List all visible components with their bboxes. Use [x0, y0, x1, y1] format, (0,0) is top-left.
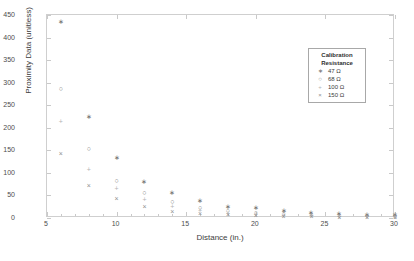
- y-axis-tick: [47, 218, 51, 219]
- x-axis-minor-tick: [353, 214, 354, 216]
- x-axis-minor-tick: [214, 214, 215, 216]
- data-point: ×: [364, 214, 371, 221]
- y-axis-tick-label: 350: [3, 56, 15, 63]
- x-axis-minor-tick: [242, 214, 243, 216]
- data-point: ×: [57, 150, 64, 157]
- x-axis-tick: [325, 15, 326, 19]
- x-axis-tick-label: 5: [44, 220, 48, 227]
- y-axis-tick: [47, 128, 51, 129]
- data-point: ×: [141, 203, 148, 210]
- y-axis-title: Proximity Data (unitless): [24, 0, 33, 141]
- legend-entry: +100 Ω: [311, 83, 363, 91]
- y-axis-tick-label: 250: [3, 101, 15, 108]
- legend-label: 100 Ω: [325, 83, 344, 91]
- x-axis-tick-label: 30: [390, 220, 398, 227]
- y-axis-tick-label: 400: [3, 33, 15, 40]
- data-point: ○: [85, 145, 92, 152]
- y-axis-tick: [389, 38, 393, 39]
- legend-entry: ∗47 Ω: [311, 67, 363, 75]
- data-point: ○: [113, 177, 120, 184]
- y-axis-tick-label: 50: [7, 191, 15, 198]
- x-axis-minor-tick: [298, 214, 299, 216]
- data-point: ○: [141, 189, 148, 196]
- y-axis-tick: [47, 60, 51, 61]
- x-axis-tick: [395, 15, 396, 19]
- y-axis-tick: [389, 60, 393, 61]
- y-axis-tick-label: 0: [11, 214, 15, 221]
- data-point: ∗: [85, 113, 92, 120]
- data-point: +: [113, 185, 120, 192]
- y-axis-tick: [47, 15, 51, 16]
- data-point: +: [57, 118, 64, 125]
- data-point: ∗: [141, 178, 148, 185]
- x-axis-tick: [256, 15, 257, 19]
- y-axis-tick: [389, 128, 393, 129]
- data-point: ×: [85, 182, 92, 189]
- data-point: ×: [336, 214, 343, 221]
- x-axis-tick-label: 15: [181, 220, 189, 227]
- x-axis-tick: [47, 212, 48, 216]
- y-axis-tick: [47, 83, 51, 84]
- legend-title-line-2: Resistance: [311, 60, 363, 68]
- x-axis-minor-tick: [158, 214, 159, 216]
- y-axis-tick: [47, 150, 51, 151]
- legend: Calibration Resistance ∗47 Ω○68 Ω+100 Ω×…: [308, 48, 366, 103]
- legend-label: 150 Ω: [325, 91, 344, 99]
- y-axis-tick: [389, 15, 393, 16]
- x-axis-minor-tick: [144, 214, 145, 216]
- x-axis-tick: [117, 212, 118, 216]
- x-axis-minor-tick: [381, 214, 382, 216]
- data-point: +: [85, 166, 92, 173]
- data-point: ×: [280, 213, 287, 220]
- legend-title-line-1: Calibration: [311, 52, 363, 60]
- data-point: ∗: [57, 18, 64, 25]
- legend-label: 47 Ω: [325, 67, 341, 75]
- x-axis-tick: [325, 212, 326, 216]
- legend-entry: ×150 Ω: [311, 91, 363, 99]
- y-axis-tick-label: 200: [3, 123, 15, 130]
- legend-marker-icon: ∗: [315, 67, 325, 75]
- legend-entries: ∗47 Ω○68 Ω+100 Ω×150 Ω: [311, 67, 363, 99]
- legend-entry: ○68 Ω: [311, 75, 363, 83]
- x-axis-tick: [117, 15, 118, 19]
- x-axis-tick-label: 10: [112, 220, 120, 227]
- y-axis-tick-label: 100: [3, 168, 15, 175]
- figure: ∗∗∗∗∗∗∗∗∗∗∗∗∗○○○○○○○○○○○○○+++++++++++++×…: [0, 0, 414, 261]
- x-axis-title: Distance (in.): [46, 233, 394, 242]
- x-axis-tick-label: 25: [320, 220, 328, 227]
- x-axis-tick-label: 20: [251, 220, 259, 227]
- y-axis-tick: [47, 105, 51, 106]
- data-point: ×: [197, 210, 204, 217]
- x-axis-tick: [186, 212, 187, 216]
- legend-marker-icon: ○: [315, 75, 325, 83]
- y-axis-tick-label: 450: [3, 11, 15, 18]
- plot-area: ∗∗∗∗∗∗∗∗∗∗∗∗∗○○○○○○○○○○○○○+++++++++++++×…: [46, 14, 394, 217]
- data-point: ×: [224, 211, 231, 218]
- data-point: ○: [57, 85, 64, 92]
- data-point: ×: [113, 195, 120, 202]
- x-axis-minor-tick: [75, 214, 76, 216]
- data-point: ∗: [113, 154, 120, 161]
- y-axis-tick: [47, 195, 51, 196]
- data-point: ×: [308, 213, 315, 220]
- x-axis-tick: [186, 15, 187, 19]
- y-axis-tick: [389, 150, 393, 151]
- x-axis-minor-tick: [131, 214, 132, 216]
- y-axis-tick: [47, 38, 51, 39]
- y-axis-tick: [389, 173, 393, 174]
- data-point: ×: [252, 212, 259, 219]
- data-point: ∗: [169, 189, 176, 196]
- y-axis-tick: [47, 173, 51, 174]
- data-point: ×: [169, 208, 176, 215]
- y-axis-tick: [389, 83, 393, 84]
- x-axis-minor-tick: [61, 214, 62, 216]
- x-axis-minor-tick: [103, 214, 104, 216]
- x-axis-minor-tick: [89, 214, 90, 216]
- y-axis-tick: [389, 195, 393, 196]
- legend-marker-icon: +: [315, 83, 325, 91]
- legend-marker-icon: ×: [315, 91, 325, 99]
- y-axis-tick-label: 300: [3, 78, 15, 85]
- legend-label: 68 Ω: [325, 75, 341, 83]
- y-axis-tick-label: 150: [3, 146, 15, 153]
- x-axis-minor-tick: [270, 214, 271, 216]
